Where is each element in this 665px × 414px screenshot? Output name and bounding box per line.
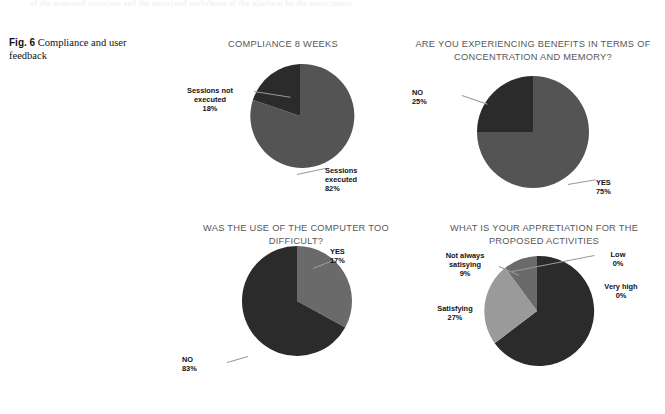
pie-graphic — [482, 256, 592, 366]
data-label-sessions-not-executed: Sessions not executed 18% — [168, 86, 252, 114]
data-label-sessions-executed: Sessions executed 82% — [325, 166, 397, 194]
data-label-yes: YES 17% — [330, 247, 380, 265]
pie-chart-computer-too-difficult: WAS THE USE OF THE COMPUTER TOO DIFFICUL… — [178, 222, 414, 412]
figure-number: Fig. 6 — [9, 37, 35, 48]
data-label-no: NO 83% — [182, 355, 226, 373]
pie-graphic — [477, 76, 589, 188]
leader-line-no — [227, 356, 248, 363]
pie-svg — [477, 76, 589, 188]
data-label-low: Low 0% — [594, 250, 642, 268]
pie-graphic — [248, 64, 352, 168]
leader-line-sessions-executed — [297, 168, 327, 175]
data-label-very-high: Very high 0% — [590, 282, 652, 300]
chart-title: ARE YOU EXPERIENCING BENEFITS IN TERMS O… — [404, 38, 662, 63]
figure-caption: Fig. 6 Compliance and user feedback — [9, 36, 159, 62]
pie-svg — [248, 64, 352, 168]
pie-chart-benefits-concentration-memory: ARE YOU EXPERIENCING BENEFITS IN TERMS O… — [404, 38, 662, 213]
page-top-bleed-text: of the proposed exercises and the percei… — [30, 0, 650, 7]
data-label-yes: YES 75% — [596, 178, 648, 196]
pie-svg — [482, 256, 592, 366]
data-label-no: NO 25% — [412, 88, 464, 106]
chart-title: WHAT IS YOUR APPRETIATION FOR THE PROPOS… — [424, 222, 664, 247]
data-label-satisfying: Satisfying 27% — [424, 304, 486, 322]
data-label-not-always-satisying: Not always satisying 9% — [432, 251, 498, 279]
chart-title: COMPLIANCE 8 WEEKS — [168, 38, 398, 51]
pie-chart-compliance-8-weeks: COMPLIANCE 8 WEEKS Sessions not executed… — [168, 38, 398, 213]
chart-title: WAS THE USE OF THE COMPUTER TOO DIFFICUL… — [178, 222, 414, 247]
pie-chart-appretiation-proposed-activities: WHAT IS YOUR APPRETIATION FOR THE PROPOS… — [424, 222, 664, 412]
